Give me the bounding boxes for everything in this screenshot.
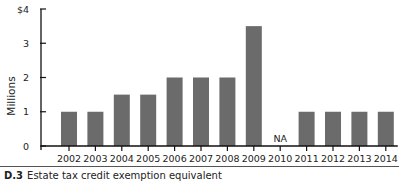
- y-tick-label: 3: [23, 38, 29, 49]
- y-tick-label: 2: [23, 72, 29, 83]
- bar-2014: [378, 112, 394, 146]
- caption-label: D.3: [4, 170, 23, 181]
- x-tick-label: 2009: [242, 153, 266, 164]
- bar-2008: [219, 78, 235, 147]
- x-tick-label: 2012: [321, 153, 345, 164]
- caption-divider: [0, 166, 399, 167]
- bar-2006: [167, 78, 183, 147]
- x-tick-label: 2005: [136, 153, 160, 164]
- na-annotation: NA: [273, 133, 287, 144]
- y-tick-label: $4: [17, 4, 29, 15]
- x-tick-label: 2011: [295, 153, 319, 164]
- bar-chart: 0123$4 NA 200220032004200520062007200820…: [0, 0, 399, 166]
- bar-2002: [61, 112, 77, 146]
- bar-2012: [325, 112, 341, 146]
- bar-2005: [140, 95, 156, 146]
- bar-2013: [351, 112, 367, 146]
- x-tick-label: 2003: [83, 153, 107, 164]
- x-tick-label: 2004: [110, 153, 134, 164]
- bar-2009: [246, 26, 262, 146]
- bar-2011: [299, 112, 315, 146]
- x-tick-label: 2006: [163, 153, 187, 164]
- x-tick-label: 2014: [374, 153, 398, 164]
- bar-2004: [114, 95, 130, 146]
- caption-text: Estate tax credit exemption equivalent: [27, 170, 222, 181]
- y-axis: 0123$4: [17, 4, 46, 152]
- y-axis-label: Millions: [5, 76, 17, 115]
- x-tick-label: 2013: [347, 153, 371, 164]
- y-tick-label: 1: [23, 106, 29, 117]
- bar-2007: [193, 78, 209, 147]
- bar-2003: [87, 112, 103, 146]
- x-tick-label: 2008: [215, 153, 239, 164]
- x-axis: 2002200320042005200620072008200920102011…: [41, 146, 398, 164]
- bars: NA: [61, 26, 394, 146]
- figure-caption: D.3Estate tax credit exemption equivalen…: [4, 170, 222, 181]
- x-tick-label: 2007: [189, 153, 213, 164]
- y-tick-label: 0: [23, 141, 29, 152]
- x-tick-label: 2010: [268, 153, 292, 164]
- x-tick-label: 2002: [57, 153, 81, 164]
